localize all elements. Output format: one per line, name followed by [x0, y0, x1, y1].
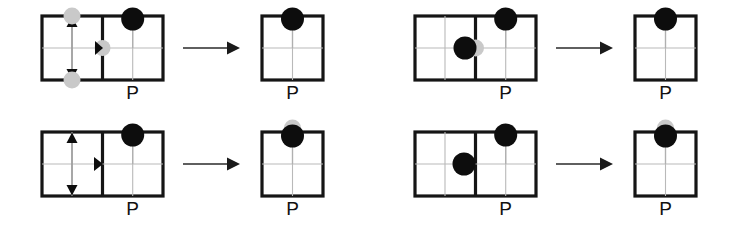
divider-arrowhead: [95, 40, 111, 56]
result-box-top-right: [635, 8, 696, 81]
result-label-p: P: [659, 82, 672, 103]
source-label-p: P: [499, 198, 512, 219]
source-box-top-right: [415, 8, 536, 81]
source-label-p: P: [499, 82, 512, 103]
panel-bottom-left: P P: [0, 114, 380, 229]
transform-arrow-bottom-right: [556, 158, 613, 171]
source-label-p: P: [126, 198, 139, 219]
gray-marker-top: [64, 8, 81, 25]
gray-marker-bottom: [64, 72, 81, 89]
panel-top-right: P P: [376, 0, 753, 115]
black-token-left-cell: [453, 153, 476, 176]
transform-arrow-bottom-left: [183, 158, 240, 171]
transform-arrow-top-right: [556, 42, 613, 55]
panel-bottom-right: P P: [376, 114, 753, 229]
transform-arrow-top-left: [183, 42, 240, 55]
panel-top-left: P P: [0, 0, 380, 115]
result-label-p: P: [659, 198, 672, 219]
result-box-bottom-right: [635, 120, 696, 197]
source-box-bottom-right: [415, 124, 536, 197]
transformation-figure: P P: [0, 0, 753, 229]
result-label-p: P: [286, 82, 299, 103]
source-box-bottom-left: [42, 124, 163, 197]
result-label-p: P: [286, 198, 299, 219]
result-box-bottom-left: [262, 120, 323, 197]
source-box-top-left: [42, 8, 163, 89]
source-label-p: P: [126, 82, 139, 103]
result-box-top-left: [262, 8, 323, 81]
black-token-left-cell: [454, 37, 477, 60]
